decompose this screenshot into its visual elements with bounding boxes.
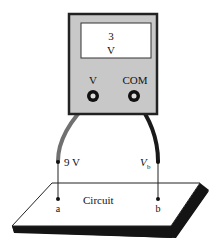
voltmeter: 3 V V COM <box>69 14 157 114</box>
circuit-board <box>12 183 209 238</box>
circuit-board-front-edge <box>12 226 172 238</box>
node-b-label: b <box>156 203 161 214</box>
terminal-v-jack[interactable] <box>87 90 99 102</box>
probe-tip-left <box>56 160 60 164</box>
meter-reading-value: 3 <box>108 30 114 42</box>
meter-reading-unit: V <box>107 44 115 56</box>
node-b-dot <box>156 197 160 201</box>
probe-tip-right <box>156 160 160 164</box>
probe-right-label-subscript: b <box>147 163 151 171</box>
probe-left-label: 9 V <box>64 156 80 168</box>
node-a-label: a <box>56 203 61 214</box>
terminal-v-label: V <box>89 74 97 86</box>
circuit-label: Circuit <box>83 194 114 206</box>
voltmeter-diagram: 3 V V COM 9 V V b Circuit a b <box>0 0 223 249</box>
node-a-dot <box>56 197 60 201</box>
meter-display <box>81 23 151 58</box>
terminal-com-jack[interactable] <box>128 90 140 102</box>
terminal-com-label: COM <box>122 74 147 86</box>
